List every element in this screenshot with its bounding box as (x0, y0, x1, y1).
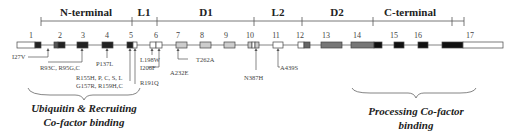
mutation-arrowheads (47, 48, 280, 51)
exon-number: 5 (129, 31, 133, 40)
mutation-label: R93C, R95G,C (40, 64, 80, 71)
exon-11 (273, 42, 283, 48)
domain-bar (41, 17, 464, 26)
mutation-label: G157R, R159H,C (76, 82, 123, 89)
exon-number: 1 (29, 31, 33, 40)
exon-17 (442, 42, 503, 48)
exon-number: 2 (58, 31, 62, 40)
exon-6 (150, 42, 162, 48)
brace-left (28, 88, 140, 100)
exon-number: 8 (200, 31, 204, 40)
exon-number: 10 (246, 31, 254, 40)
domain-label-d1: D1 (199, 6, 212, 18)
exon-5 (127, 42, 137, 48)
domain-label-c-terminal: C-terminal (384, 6, 436, 18)
functional-region-label: Processing Co-factor (368, 105, 464, 117)
mutation-label: R155H, P, C, S, L (76, 74, 123, 81)
exon-2 (54, 42, 65, 48)
exon-number: 13 (322, 31, 330, 40)
exon-12 (298, 42, 310, 48)
functional-region-label: Ubiquitin & Recruiting (31, 102, 137, 114)
domain-label-n-terminal: N-terminal (60, 6, 112, 18)
exon-number: 15 (390, 31, 398, 40)
exon-number: 6 (154, 31, 158, 40)
exon-number: 11 (272, 31, 280, 40)
exon-number: 16 (414, 31, 422, 40)
exon-number: 17 (466, 31, 474, 40)
mutation-label: I206F (140, 64, 156, 71)
exon-7 (176, 42, 187, 48)
exon-number: 4 (105, 31, 109, 40)
mutation-label: N387H (244, 74, 263, 81)
domain-label-l2: L2 (272, 6, 285, 18)
exon-16 (418, 42, 428, 48)
mutation-label: R191Q (140, 79, 159, 86)
exon-15 (394, 42, 404, 48)
exon-10 (248, 42, 259, 48)
exon-14 (351, 42, 382, 48)
exon-number: 3 (81, 31, 85, 40)
exon-number: 14 (353, 31, 361, 40)
exon-9 (224, 42, 235, 48)
exon-4 (102, 42, 113, 48)
exon-13 (321, 42, 342, 48)
exon-numbers: 1 2 3 4 5 6 7 8 9 10 11 12 13 14 15 16 1… (29, 31, 474, 40)
functional-region-label: Co-factor binding (44, 116, 125, 128)
mutation-label: P137L (96, 60, 113, 67)
mutation-label: L198W (140, 56, 161, 63)
exon-3 (77, 42, 88, 48)
mutation-label: T262A (196, 56, 215, 63)
functional-region-label: binding (399, 119, 434, 131)
exon-number: 9 (224, 31, 228, 40)
exon-number: 7 (176, 31, 180, 40)
gene-structure-diagram: N-terminal L1 D1 L2 D2 C-terminal 1 2 3 … (0, 0, 517, 136)
exon-1 (17, 42, 41, 48)
domain-label-d2: D2 (330, 6, 344, 18)
mutation-label: A232E (170, 69, 188, 76)
brace-right (352, 88, 476, 98)
mutation-label: I27V (12, 53, 26, 60)
mutation-label: A439S (280, 64, 298, 71)
domain-label-l1: L1 (138, 6, 151, 18)
exon-8 (200, 42, 211, 48)
exon-number: 12 (296, 31, 304, 40)
